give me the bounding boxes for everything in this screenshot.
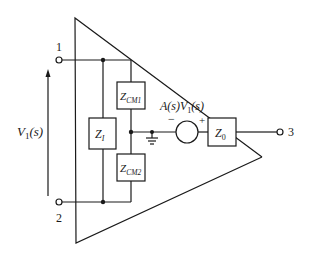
z-cm1-impedance: ZCM1 <box>117 82 145 109</box>
terminal-3-label: 3 <box>288 125 294 139</box>
dependent-voltage-source <box>176 121 198 143</box>
op-amp-circuit-diagram: 1 2 V1(s) ZI ZCM1 ZCM2 <box>0 0 309 262</box>
source-plus-sign: + <box>199 114 205 126</box>
terminal-2: 2 <box>56 199 62 225</box>
source-gain-label: A(s)V1(s) <box>159 99 204 115</box>
z-i-impedance: ZI <box>89 118 116 149</box>
terminal-2-label: 2 <box>56 211 62 225</box>
z-0-impedance: Z0 <box>208 118 236 146</box>
terminal-1-label: 1 <box>56 40 62 54</box>
input-voltage-arrow <box>46 69 51 196</box>
source-minus-sign: − <box>168 112 175 126</box>
terminal-1: 1 <box>56 40 62 63</box>
input-voltage-label: V1(s) <box>17 124 43 141</box>
terminal-3: 3 <box>277 125 294 139</box>
z-cm2-impedance: ZCM2 <box>117 154 145 181</box>
